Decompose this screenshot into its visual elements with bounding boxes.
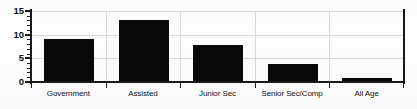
y-minor-tick-11: [27, 30, 31, 31]
y-minor-tick-3: [27, 68, 31, 69]
bar-senior-sec-comp: [268, 64, 318, 82]
y-minor-tick-13: [27, 20, 31, 21]
gridline-y-15: [31, 11, 404, 12]
gridline-y-10: [31, 35, 404, 36]
y-minor-tick-4: [27, 63, 31, 64]
gridline-x-2: [180, 11, 181, 82]
x-axis-label-senior-sec-comp: Senior Sec/Comp: [255, 90, 330, 98]
x-tick-boundary-0: [31, 83, 32, 88]
y-tick-10: [25, 34, 31, 36]
y-axis-label-15: 15: [0, 6, 24, 16]
y-minor-tick-7: [27, 49, 31, 50]
y-minor-tick-14: [27, 16, 31, 17]
bar-assisted: [119, 20, 169, 82]
y-minor-tick-8: [27, 44, 31, 45]
y-minor-tick-9: [27, 39, 31, 40]
gridline-x-3: [255, 11, 256, 82]
x-tick-boundary-4: [329, 83, 330, 88]
x-tick-boundary-1: [106, 83, 107, 88]
y-axis-label-10: 10: [0, 30, 24, 40]
y-minor-tick-12: [27, 25, 31, 26]
y-minor-tick-1: [27, 77, 31, 78]
y-minor-tick-2: [27, 72, 31, 73]
plot-area: [31, 11, 404, 82]
bar-government: [44, 39, 94, 82]
x-tick-boundary-2: [180, 83, 181, 88]
gridline-x-4: [329, 11, 330, 82]
x-axis-line: [30, 81, 405, 83]
y-axis-labels: 15 10 5 0: [0, 0, 25, 109]
y-axis-label-5: 5: [0, 53, 24, 63]
y-tick-5: [25, 57, 31, 59]
y-axis-label-0: 0: [0, 77, 24, 87]
bar-chart: 15 10 5 0 Government Assisted Junior Sec…: [0, 0, 417, 109]
x-axis-label-assisted: Assisted: [106, 90, 181, 98]
y-minor-tick-6: [27, 54, 31, 55]
x-axis-label-government: Government: [31, 90, 106, 98]
x-tick-boundary-5: [403, 83, 404, 88]
gridline-x-1: [106, 11, 107, 82]
x-tick-boundary-3: [255, 83, 256, 88]
right-spine: [403, 9, 405, 84]
x-axis-label-junior-sec: Junior Sec: [180, 90, 255, 98]
y-tick-15: [25, 10, 31, 12]
x-axis-label-all-age: All Age: [329, 90, 404, 98]
bar-junior-sec: [193, 45, 243, 82]
